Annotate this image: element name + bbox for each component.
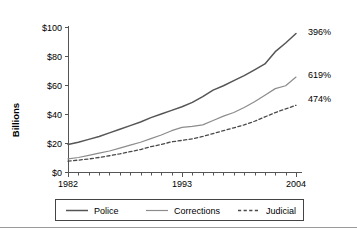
legend-label-judicial: Judicial <box>266 206 296 216</box>
y-tick-label: $40 <box>47 110 62 120</box>
x-axis-tick-marks <box>69 173 297 178</box>
spending-trend-chart: Billions $0$20$40$60$80$100 198219932004… <box>0 0 357 235</box>
y-axis-title: Billions <box>10 103 21 137</box>
legend-label-corrections: Corrections <box>174 206 221 216</box>
x-tick-label: 2004 <box>286 179 306 189</box>
y-axis-tick-marks <box>65 28 69 173</box>
growth-label-corrections: 619% <box>308 70 331 80</box>
y-tick-label: $20 <box>47 139 62 149</box>
legend-label-police: Police <box>94 206 119 216</box>
y-tick-label: $100 <box>42 23 62 33</box>
y-tick-label: $0 <box>52 168 62 178</box>
x-axis-tick-labels: 198219932004 <box>58 179 306 189</box>
x-tick-label: 1993 <box>172 179 192 189</box>
y-tick-label: $80 <box>47 52 62 62</box>
growth-label-police: 396% <box>308 27 331 37</box>
y-tick-label: $60 <box>47 81 62 91</box>
legend-items: PoliceCorrectionsJudicial <box>66 206 296 216</box>
y-axis-tick-labels: $0$20$40$60$80$100 <box>42 23 62 178</box>
x-tick-label: 1982 <box>58 179 78 189</box>
series-growth-annotations: 396%619%474% <box>308 27 331 105</box>
growth-label-judicial: 474% <box>308 94 331 104</box>
chart-canvas: Billions $0$20$40$60$80$100 198219932004… <box>0 0 357 235</box>
series-lines <box>68 34 296 162</box>
chart-legend: PoliceCorrectionsJudicial <box>56 200 304 221</box>
